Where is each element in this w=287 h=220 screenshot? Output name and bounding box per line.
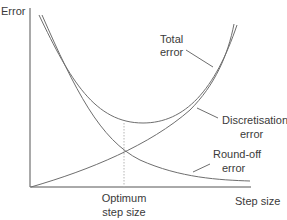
discretisation-error-label-line2: error — [240, 128, 264, 140]
round-off-error-label-line2: error — [222, 162, 246, 174]
total-error-label-line1: Total — [160, 33, 183, 45]
total-error-label-line2: error — [160, 46, 184, 58]
round-off-error-leader — [193, 164, 210, 172]
optimum-label-line2: step size — [102, 206, 145, 218]
discretisation-error-curve — [31, 24, 234, 187]
optimum-label-line1: Optimum — [102, 192, 147, 204]
error-vs-step-size-chart: Error Step size Optimum step size Total … — [0, 0, 287, 220]
total-error-leader — [186, 50, 213, 67]
x-axis-label: Step size — [235, 195, 280, 207]
discretisation-error-label-line1: Discretisation — [222, 114, 287, 126]
total-error-curve — [39, 15, 237, 123]
round-off-error-label-line1: Round-off — [213, 148, 262, 160]
discretisation-error-leader — [197, 108, 218, 118]
y-axis-label: Error — [1, 5, 26, 17]
